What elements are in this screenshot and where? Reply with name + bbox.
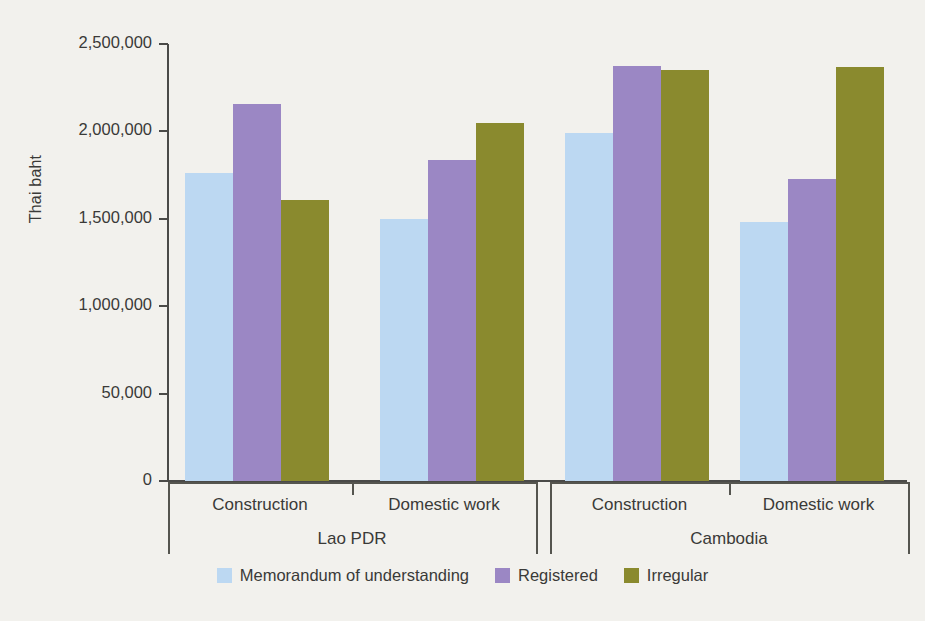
bar [476,123,524,481]
legend-swatch-icon [624,568,639,583]
bar [233,104,281,481]
y-axis-tick-mark [159,43,168,45]
bar [281,200,329,481]
legend-label: Registered [518,566,598,585]
bar [185,173,233,481]
y-axis-tick-mark [159,130,168,132]
country-label: Lao PDR [168,529,536,549]
bar [740,222,788,481]
legend-swatch-icon [495,568,510,583]
y-axis-tick-label: 2,000,000 [2,120,152,139]
bar [428,160,476,481]
legend-item[interactable]: Irregular [624,566,708,585]
y-axis-tick-label: 50,000 [2,383,152,402]
category-label: Construction [168,495,352,515]
legend-swatch-icon [217,568,232,583]
bar-chart-figure: Thai baht 2,500,0002,000,0001,500,0001,0… [0,0,925,621]
bar [565,133,613,481]
category-divider-tick [352,482,354,495]
bar [836,67,884,481]
bar [661,70,709,481]
y-axis-tick-label: 1,000,000 [2,295,152,314]
y-axis-tick-label: 1,500,000 [2,208,152,227]
category-divider-tick [729,482,731,495]
y-axis-tick-label: 0 [2,470,152,489]
legend-label: Memorandum of understanding [240,566,469,585]
country-label: Cambodia [550,529,908,549]
bar [788,179,836,481]
bar [613,66,661,481]
y-axis-tick-mark [159,305,168,307]
category-label: Construction [550,495,729,515]
legend-item[interactable]: Registered [495,566,598,585]
plot-area [168,44,908,481]
country-bracket-edge [536,482,538,554]
category-axis: ConstructionDomestic workLao PDRConstruc… [168,482,908,560]
country-bracket-edge [908,482,910,554]
legend-label: Irregular [647,566,708,585]
bar [380,219,428,481]
legend-item[interactable]: Memorandum of understanding [217,566,469,585]
y-axis-tick-label: 2,500,000 [2,33,152,52]
category-label: Domestic work [729,495,908,515]
y-axis-tick-mark [159,393,168,395]
chart-legend: Memorandum of understandingRegisteredIrr… [0,566,925,585]
y-axis-tick-mark [159,218,168,220]
category-label: Domestic work [352,495,536,515]
